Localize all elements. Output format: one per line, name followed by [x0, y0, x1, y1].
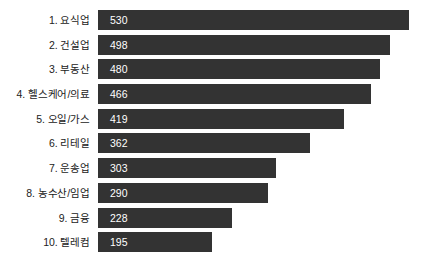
- bar-track: 498: [98, 35, 428, 55]
- bar[interactable]: 466: [98, 84, 371, 104]
- chart-row: 5. 오일/가스 419: [0, 109, 428, 129]
- bar-track: 290: [98, 183, 428, 203]
- bar-value-label: 530: [110, 10, 128, 30]
- bar[interactable]: 419: [98, 109, 344, 129]
- chart-row: 9. 금융 228: [0, 208, 428, 228]
- bar-track: 419: [98, 109, 428, 129]
- category-label: 7. 운송업: [0, 158, 94, 178]
- bar[interactable]: 228: [98, 208, 232, 228]
- chart-row: 3. 부동산 480: [0, 59, 428, 79]
- bar-value-label: 480: [110, 59, 128, 79]
- chart-row: 2. 건설업 498: [0, 35, 428, 55]
- bar-track: 466: [98, 84, 428, 104]
- bar[interactable]: 480: [98, 59, 380, 79]
- bar-value-label: 290: [110, 183, 128, 203]
- chart-row: 6. 리테일 362: [0, 133, 428, 153]
- category-label: 4. 헬스케어/의료: [0, 84, 94, 104]
- bar-value-label: 466: [110, 84, 128, 104]
- chart-row: 10. 텔레컴 195: [0, 232, 428, 252]
- bar-value-label: 498: [110, 35, 128, 55]
- chart-row: 7. 운송업 303: [0, 158, 428, 178]
- bar-track: 480: [98, 59, 428, 79]
- category-label: 5. 오일/가스: [0, 109, 94, 129]
- bar-track: 228: [98, 208, 428, 228]
- bar-value-label: 362: [110, 133, 128, 153]
- bar[interactable]: 362: [98, 133, 310, 153]
- bar-value-label: 195: [110, 232, 128, 252]
- chart-row: 8. 농수산/임업 290: [0, 183, 428, 203]
- category-label: 6. 리테일: [0, 133, 94, 153]
- bar-track: 530: [98, 10, 428, 30]
- chart-row: 1. 요식업 530: [0, 10, 428, 30]
- chart-row: 4. 헬스케어/의료 466: [0, 84, 428, 104]
- bar-track: 303: [98, 158, 428, 178]
- category-label: 9. 금융: [0, 208, 94, 228]
- bar[interactable]: 290: [98, 183, 268, 203]
- category-label: 10. 텔레컴: [0, 232, 94, 252]
- bar[interactable]: 530: [98, 10, 409, 30]
- category-label: 8. 농수산/임업: [0, 183, 94, 203]
- bar-value-label: 228: [110, 208, 128, 228]
- category-label: 1. 요식업: [0, 10, 94, 30]
- bar-value-label: 303: [110, 158, 128, 178]
- bar[interactable]: 498: [98, 35, 390, 55]
- bar[interactable]: 195: [98, 232, 212, 252]
- bar-value-label: 419: [110, 109, 128, 129]
- bar-track: 362: [98, 133, 428, 153]
- category-label: 2. 건설업: [0, 35, 94, 55]
- bar-track: 195: [98, 232, 428, 252]
- bar[interactable]: 303: [98, 158, 276, 178]
- bar-rows: 1. 요식업 530 2. 건설업 498 3. 부동산 480: [0, 10, 428, 256]
- category-label: 3. 부동산: [0, 59, 94, 79]
